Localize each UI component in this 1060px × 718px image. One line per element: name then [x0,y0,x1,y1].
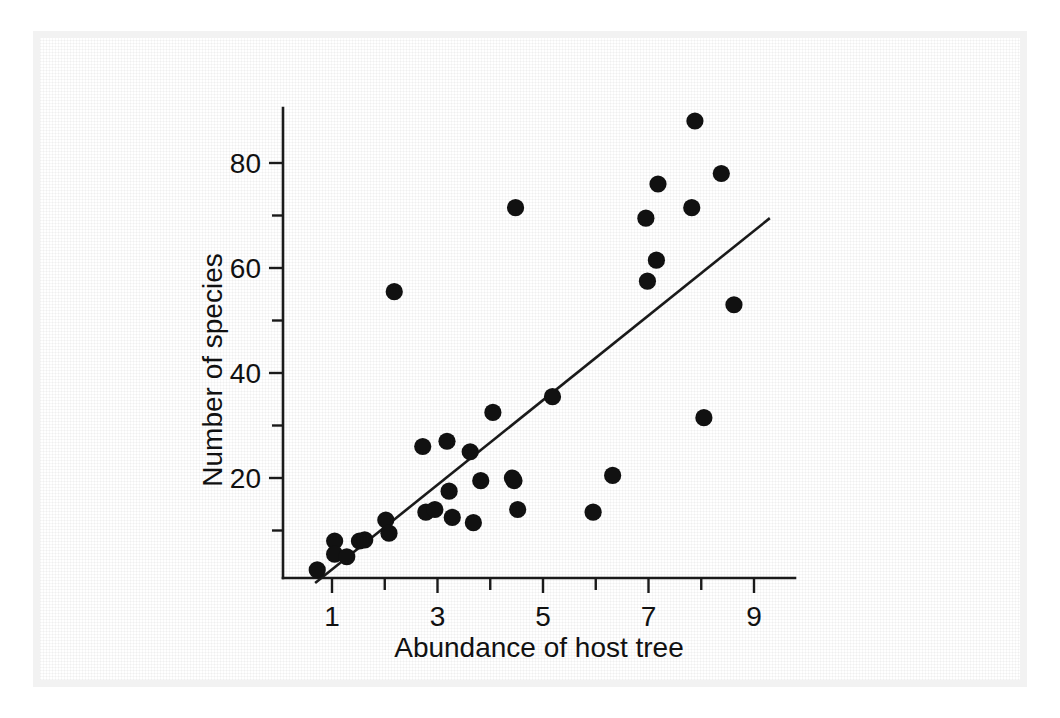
data-point [462,443,479,460]
x-tick-label: 1 [324,601,340,632]
x-tick-label: 9 [746,601,762,632]
data-point [695,409,712,426]
data-point [465,514,482,531]
data-point [725,296,742,313]
data-point [648,252,665,269]
data-points-group [309,112,743,578]
data-point [639,273,656,290]
data-point [472,472,489,489]
data-point [444,509,461,526]
data-point [380,525,397,542]
y-tick-label: 20 [230,463,261,494]
data-point [504,469,521,486]
data-point [338,548,355,565]
data-point [509,501,526,518]
data-point [544,388,561,405]
data-point [507,199,524,216]
data-point [309,561,326,578]
data-point [386,283,403,300]
chart-page: 20406080 13579 Abundance of host tree Nu… [0,0,1060,718]
scatter-plot: 20406080 13579 Abundance of host tree Nu… [0,0,1060,718]
y-axis-tick-labels: 20406080 [230,148,261,494]
data-point [585,504,602,521]
x-axis-ticks [332,578,754,593]
data-point [438,433,455,450]
y-axis-title: Number of species [197,253,228,486]
y-tick-label: 60 [230,253,261,284]
x-axis-title: Abundance of host tree [394,632,684,663]
y-tick-label: 80 [230,148,261,179]
data-point [713,165,730,182]
data-point [604,467,621,484]
data-point [484,404,501,421]
data-point [637,210,654,227]
x-tick-label: 3 [430,601,446,632]
data-point [441,483,458,500]
data-point [414,438,431,455]
x-tick-label: 5 [535,601,551,632]
y-tick-label: 40 [230,358,261,389]
data-point [649,175,666,192]
data-point [686,112,703,129]
data-point [426,501,443,518]
x-tick-label: 7 [641,601,657,632]
data-point [356,531,373,548]
y-axis-ticks [269,163,283,531]
x-axis-tick-labels: 13579 [324,601,762,632]
data-point [683,199,700,216]
